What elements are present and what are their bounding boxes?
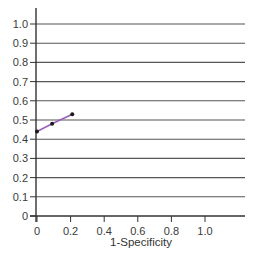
y-tick-label: 0.4 xyxy=(13,133,28,145)
gridlines xyxy=(36,24,245,197)
y-tick-label: 0.5 xyxy=(13,114,28,126)
y-ticks: 00.10.20.30.40.50.60.70.80.91.0 xyxy=(13,18,36,222)
y-tick-label: 0 xyxy=(22,210,28,222)
y-tick-label: 0.2 xyxy=(13,172,28,184)
data-point xyxy=(35,130,39,134)
y-tick-label: 0.8 xyxy=(13,56,28,68)
axes xyxy=(30,8,245,222)
x-tick-label: 1.0 xyxy=(197,225,212,237)
y-tick-label: 0.7 xyxy=(13,76,28,88)
x-ticks: 00.20.40.60.81.0 xyxy=(34,216,213,237)
y-tick-label: 0.3 xyxy=(13,152,28,164)
roc-chart: 00.10.20.30.40.50.60.70.80.91.0 00.20.40… xyxy=(0,0,253,259)
x-axis-title: 1-Specificity xyxy=(110,236,172,248)
data-series xyxy=(35,112,74,133)
data-point xyxy=(70,112,74,116)
y-tick-label: 0.9 xyxy=(13,37,28,49)
y-tick-label: 0.6 xyxy=(13,95,28,107)
y-tick-label: 0.1 xyxy=(13,191,28,203)
x-tick-label: 0.2 xyxy=(63,225,78,237)
series-line xyxy=(37,114,72,131)
data-point xyxy=(50,122,54,126)
y-tick-label: 1.0 xyxy=(13,18,28,30)
x-tick-label: 0 xyxy=(34,225,40,237)
